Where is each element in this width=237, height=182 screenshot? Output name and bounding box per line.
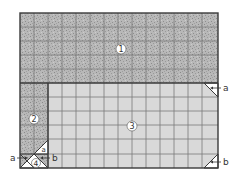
- tiling-diagram: 1 2 3 4 a b a a b: [0, 0, 237, 182]
- svg-text:a: a: [223, 83, 229, 93]
- svg-text:a: a: [10, 153, 16, 163]
- svg-text:2: 2: [31, 115, 36, 124]
- region-2-badge: 2: [29, 114, 39, 124]
- svg-text:4: 4: [34, 159, 39, 168]
- svg-text:a: a: [42, 146, 46, 154]
- label-a-bottom-left-inner: a: [42, 146, 46, 154]
- region-4-badge: 4: [32, 159, 41, 169]
- svg-text:3: 3: [129, 122, 134, 131]
- region-1-badge: 1: [116, 44, 126, 54]
- region-3-badge: 3: [127, 121, 137, 131]
- svg-text:b: b: [223, 157, 229, 167]
- svg-text:1: 1: [118, 45, 123, 54]
- svg-text:b: b: [52, 153, 58, 163]
